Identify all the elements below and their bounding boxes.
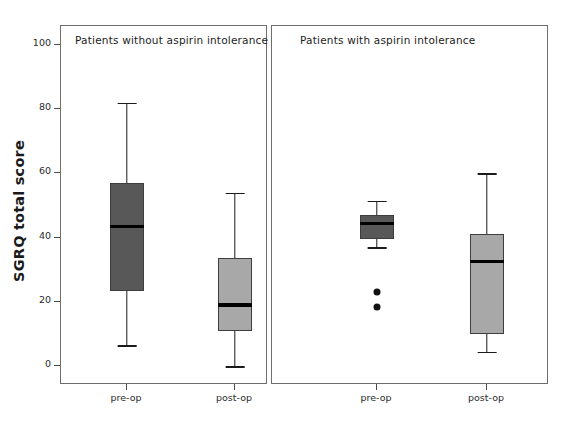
- median-line: [218, 303, 252, 306]
- panel-with-aspirin-intolerance: Patients with aspirin intolerance: [271, 25, 548, 384]
- box-plot-post-op: [470, 26, 504, 383]
- x-tick-mark: [126, 384, 127, 390]
- y-tick-label: 40: [39, 230, 51, 242]
- y-tick-label: 100: [33, 37, 51, 49]
- lower-whisker-cap: [368, 247, 387, 249]
- x-tick-label-pre-op: pre-op: [110, 392, 141, 403]
- median-line: [470, 260, 504, 263]
- upper-whisker-line: [376, 201, 377, 215]
- lower-whisker-cap: [226, 366, 245, 368]
- box-iqr-rect: [110, 183, 144, 291]
- upper-whisker-cap: [226, 193, 245, 195]
- box-iqr-rect: [218, 258, 252, 330]
- x-tick-label-post-op: post-op: [468, 392, 504, 403]
- upper-whisker-cap: [118, 103, 137, 105]
- plot-area-left: [61, 26, 266, 383]
- x-tick-label-post-op: post-op: [216, 392, 252, 403]
- median-line: [110, 225, 144, 228]
- y-tick-label: 20: [39, 294, 51, 306]
- lower-whisker-line: [234, 331, 235, 366]
- plot-area-right: [272, 26, 547, 383]
- x-tick-mark: [486, 384, 487, 390]
- lower-whisker-cap: [478, 352, 497, 354]
- outlier-point: [374, 303, 381, 310]
- y-tick-label: 60: [39, 165, 51, 177]
- boxplot-figure: SGRQ total score 020406080100 Patients w…: [0, 0, 567, 421]
- box-iqr-rect: [470, 234, 504, 334]
- x-tick-mark: [234, 384, 235, 390]
- y-axis-ticks: 020406080100: [0, 0, 60, 421]
- lower-whisker-line: [486, 334, 487, 352]
- y-tick-label: 80: [39, 101, 51, 113]
- y-tick-label: 0: [45, 358, 51, 370]
- x-tick-mark: [376, 384, 377, 390]
- box-plot-pre-op: [110, 26, 144, 383]
- box-iqr-rect: [360, 215, 394, 239]
- box-plot-post-op: [218, 26, 252, 383]
- box-plot-pre-op: [360, 26, 394, 383]
- upper-whisker-cap: [368, 201, 387, 203]
- x-tick-label-pre-op: pre-op: [360, 392, 391, 403]
- upper-whisker-cap: [478, 173, 497, 175]
- lower-whisker-cap: [118, 345, 137, 347]
- outlier-point: [374, 289, 381, 296]
- median-line: [360, 222, 394, 225]
- panel-without-aspirin-intolerance: Patients without aspirin intolerance: [60, 25, 267, 384]
- lower-whisker-line: [376, 239, 377, 247]
- lower-whisker-line: [126, 291, 127, 346]
- upper-whisker-line: [126, 103, 127, 183]
- upper-whisker-line: [486, 173, 487, 234]
- upper-whisker-line: [234, 193, 235, 259]
